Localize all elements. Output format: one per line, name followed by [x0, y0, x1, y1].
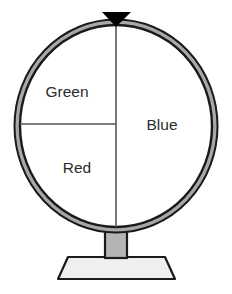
sector-label-blue: Blue	[146, 116, 177, 133]
stand-base	[58, 257, 175, 279]
spinner-stand	[58, 230, 175, 279]
spinner-canvas: Green Blue Red	[0, 0, 232, 294]
sector-label-green: Green	[45, 83, 88, 100]
spinner-figure: Green Blue Red	[0, 0, 232, 294]
stand-post	[105, 230, 127, 258]
sector-label-red: Red	[63, 159, 91, 176]
